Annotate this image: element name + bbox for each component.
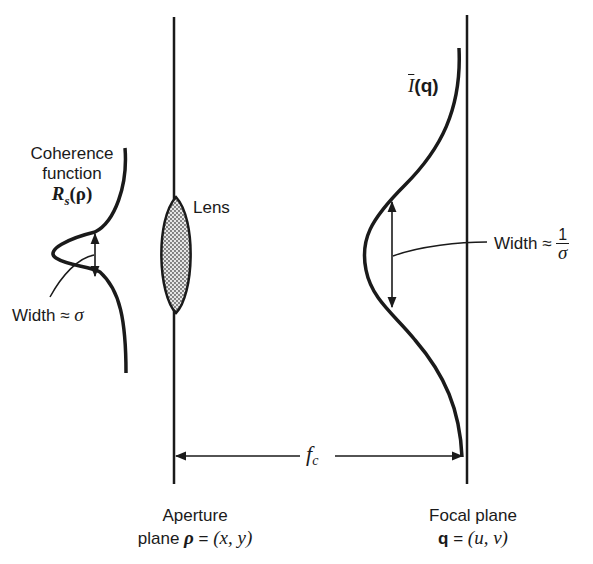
coherence-function-label: Coherence function Rs(ρ) <box>22 144 122 211</box>
intensity-curve <box>364 48 462 457</box>
optics-diagram <box>0 0 593 564</box>
aperture-plane-label: Aperture plane ρ = (x, y) <box>120 505 270 550</box>
focal-label-line2: q = (u, v) <box>418 527 528 550</box>
lens-label: Lens <box>193 198 230 218</box>
focal-plane-label: Focal plane q = (u, v) <box>418 505 528 550</box>
coherence-label-line2: function <box>22 164 122 184</box>
focal-label-line1: Focal plane <box>418 505 528 527</box>
coherence-label-line1: Coherence <box>22 144 122 164</box>
intensity-label: I(q) <box>408 76 439 96</box>
coherence-symbol: Rs(ρ) <box>22 184 122 211</box>
intensity-width-leader <box>393 242 487 256</box>
intensity-width-label: Width ≈ 1σ <box>494 226 569 261</box>
coherence-width-label: Width ≈ σ <box>12 305 84 326</box>
aperture-label-line2: plane ρ = (x, y) <box>120 527 270 550</box>
inverse-sigma-fraction: 1σ <box>556 226 569 261</box>
focal-length-label: fc <box>306 444 318 471</box>
lens-shape <box>161 197 190 313</box>
coherence-width-leader <box>50 255 94 297</box>
aperture-label-line1: Aperture <box>120 505 270 527</box>
